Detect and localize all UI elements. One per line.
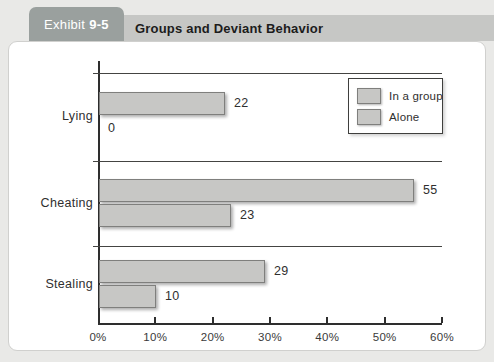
category-separator-line — [93, 73, 442, 74]
x-axis-tick-label: 0% — [89, 331, 106, 343]
category-label: Stealing — [9, 277, 93, 291]
legend-swatch-alone — [357, 109, 381, 125]
category-separator-line — [93, 161, 442, 162]
bar-alone — [99, 204, 231, 227]
bar-in-a-group — [99, 179, 414, 202]
legend-label-in-a-group: In a group — [389, 90, 443, 102]
category-label: Lying — [9, 109, 93, 123]
legend: In a group Alone — [348, 78, 443, 134]
bar-value-label: 10 — [165, 289, 180, 303]
bar-in-a-group — [99, 260, 265, 283]
x-axis-tick — [384, 317, 386, 323]
bar-in-a-group — [99, 92, 225, 115]
x-axis-tick-label: 50% — [373, 331, 397, 343]
bar-value-label: 0 — [108, 121, 115, 135]
legend-item-in-a-group: In a group — [357, 88, 442, 104]
category-label: Cheating — [9, 196, 93, 210]
legend-label-alone: Alone — [389, 111, 419, 123]
x-axis-tick-label: 30% — [258, 331, 282, 343]
x-axis-tick-label: 20% — [201, 331, 225, 343]
exhibit-tab-number: 9-5 — [89, 17, 109, 32]
exhibit-page: Groups and Deviant Behavior Exhibit 9-5 … — [0, 0, 494, 362]
x-axis-tick-label: 40% — [315, 331, 339, 343]
x-axis-tick-label: 60% — [430, 331, 454, 343]
bar-value-label: 29 — [274, 264, 289, 278]
bar-alone — [99, 285, 156, 308]
chart-card: 0%10%20%30%40%50%60%Lying220Cheating5523… — [8, 41, 486, 351]
x-axis-tick-label: 10% — [143, 331, 167, 343]
x-axis-tick — [154, 317, 156, 323]
legend-item-alone: Alone — [357, 109, 442, 125]
x-axis-tick — [212, 317, 214, 323]
x-axis-tick — [441, 317, 443, 323]
exhibit-tab: Exhibit 9-5 — [29, 7, 124, 41]
x-axis-line — [98, 323, 442, 325]
legend-swatch-in-a-group — [357, 88, 381, 104]
x-axis-tick — [269, 317, 271, 323]
bar-value-label: 23 — [240, 208, 255, 222]
exhibit-header-bar: Groups and Deviant Behavior — [104, 15, 494, 41]
bar-value-label: 55 — [423, 183, 438, 197]
bar-value-label: 22 — [234, 96, 249, 110]
x-axis-tick — [326, 317, 328, 323]
category-separator-line — [93, 246, 442, 247]
chart-title: Groups and Deviant Behavior — [135, 21, 323, 36]
exhibit-tab-prefix: Exhibit — [44, 17, 85, 32]
